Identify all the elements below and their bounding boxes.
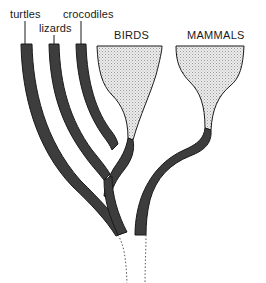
crocodiles-label: crocodiles (63, 9, 114, 20)
turtles-label: turtles (10, 9, 41, 20)
reptile-stem-branch (104, 176, 127, 235)
root-right-dotted-line (145, 235, 146, 283)
birds-label: BIRDS (114, 30, 149, 41)
mammals-clade-shape (176, 46, 244, 130)
lizards-label: lizards (39, 23, 72, 34)
mammals-branch (135, 128, 211, 235)
phylogenetic-tree-diagram (0, 0, 266, 283)
mammals-label: MAMMALS (187, 30, 245, 41)
root-left-dotted-line (118, 235, 127, 283)
